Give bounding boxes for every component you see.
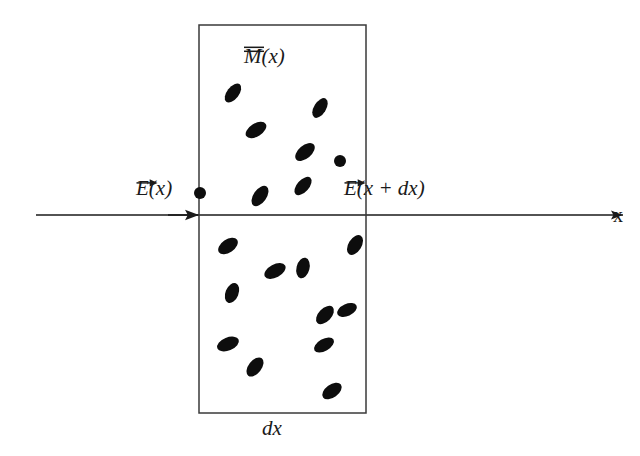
vector-arrow-icon	[136, 178, 158, 187]
incident-field-label: E (x)	[136, 178, 172, 199]
dipole-ellipse	[292, 140, 318, 165]
dipole-ellipse	[222, 281, 242, 305]
dipole-ellipse	[335, 300, 359, 320]
dipole-ellipse	[319, 379, 344, 402]
dipole-ellipse	[221, 81, 244, 106]
vector-wrapper: E	[344, 178, 357, 199]
overbar-wrapper: M	[244, 46, 262, 67]
dipole-ellipse	[313, 303, 338, 328]
point-charge-group	[194, 155, 346, 199]
dipole-ellipse	[215, 334, 241, 355]
point-charge-dot	[194, 187, 206, 199]
dipole-ellipse	[248, 183, 272, 209]
dipole-ellipse	[215, 234, 241, 257]
dipole-ellipse	[344, 232, 367, 258]
vector-wrapper: E	[136, 178, 149, 199]
exit-field-label: E (x + dx)	[344, 178, 425, 199]
slab-rectangle	[199, 25, 366, 413]
magnetization-tensor-label: M (x)	[244, 46, 285, 67]
dipole-ellipse	[243, 354, 267, 379]
dipole-group-upper	[221, 81, 330, 210]
dipole-ellipse	[243, 118, 269, 141]
field-argument-out: (x + dx)	[357, 176, 425, 200]
dipole-group-lower	[215, 232, 366, 402]
dipole-ellipse	[294, 256, 312, 280]
point-charge-dot	[334, 155, 346, 167]
magnetization-argument: (x)	[262, 44, 285, 68]
diagram-canvas	[0, 0, 640, 456]
dipole-ellipse	[311, 334, 336, 355]
double-overbar-icon	[244, 46, 264, 53]
dipole-ellipse	[309, 95, 331, 120]
dipole-ellipse	[291, 174, 315, 198]
x-axis-label: x	[613, 205, 623, 225]
dipole-ellipse	[262, 260, 288, 282]
physics-diagram: M (x) E (x) E (x + dx) dx x	[0, 0, 640, 456]
thickness-label: dx	[262, 418, 282, 439]
vector-arrow-icon	[344, 178, 366, 187]
